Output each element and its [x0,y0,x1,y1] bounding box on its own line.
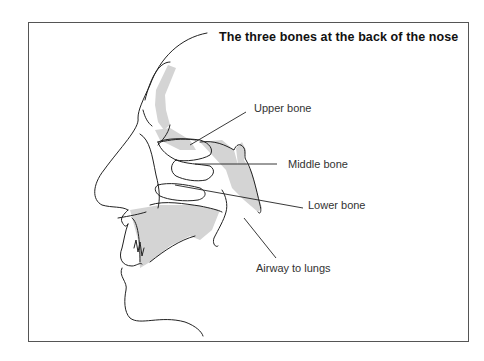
shaded-tissue [130,65,262,268]
leader-airway [244,218,276,258]
label-airway: Airway to lungs [256,262,331,274]
nose-cross-section-illustration [0,0,484,361]
label-upper-bone: Upper bone [254,102,312,114]
label-middle-bone: Middle bone [288,158,348,170]
diagram-title: The three bones at the back of the nose [219,30,458,44]
label-lower-bone: Lower bone [308,199,366,211]
leader-upper-bone [190,112,246,145]
